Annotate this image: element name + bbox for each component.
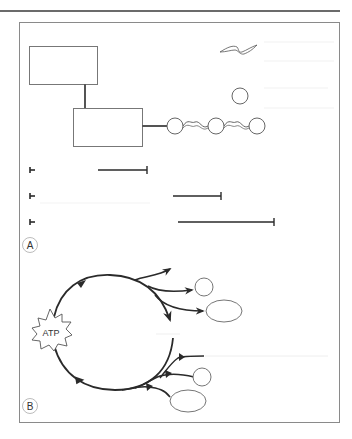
- branch-in-3: [122, 387, 170, 397]
- panel-label-b: B: [27, 401, 34, 412]
- legend-circle-icon: [232, 88, 248, 104]
- bead-3: [249, 118, 265, 134]
- panel-b: ATP B: [23, 269, 329, 414]
- cycle-arc-upper: [54, 275, 170, 320]
- figure-canvas: A ATP B: [0, 0, 352, 439]
- panel-label-a: A: [27, 240, 34, 251]
- timeline-row-1: [30, 166, 147, 174]
- substrate-circle: [193, 368, 211, 386]
- branch-in-2: [135, 374, 194, 388]
- timeline-row-3: [30, 218, 274, 226]
- bead-2: [208, 118, 224, 134]
- cycle-arc-lower: [54, 338, 173, 390]
- legend-wave-icon: [220, 45, 257, 54]
- box-lower: [74, 109, 143, 147]
- product-ellipse: [206, 300, 242, 322]
- branch-out-1: [135, 269, 170, 280]
- box-upper: [30, 47, 98, 85]
- product-circle: [195, 278, 213, 296]
- substrate-ellipse: [170, 390, 206, 412]
- atp-label: ATP: [43, 328, 60, 338]
- panel-a: A: [23, 42, 335, 253]
- timeline-row-2: [30, 192, 221, 203]
- branch-out-2: [148, 286, 192, 291]
- bead-1: [167, 118, 183, 134]
